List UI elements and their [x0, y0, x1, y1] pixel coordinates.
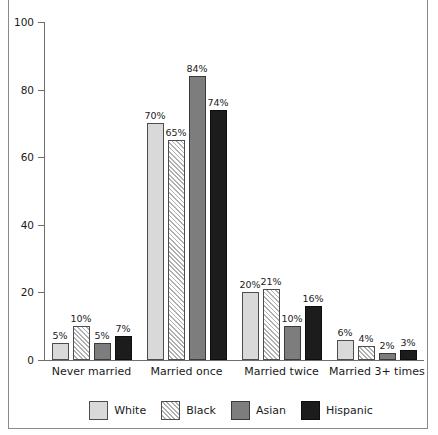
category-label-1: Married once: [139, 365, 234, 378]
y-tick-label: 100: [4, 17, 34, 27]
bar-value-label: 6%: [337, 328, 352, 338]
bar-slot: 74%: [210, 22, 227, 360]
y-tick-label: 60: [4, 152, 34, 162]
y-tick-label: 0: [4, 355, 34, 365]
bar-value-label: 21%: [260, 277, 281, 287]
bar-value-label: 20%: [239, 280, 260, 290]
bar-asian-3[interactable]: [379, 353, 396, 360]
swatch-asian-icon: [231, 401, 250, 420]
legend-item-hispanic[interactable]: Hispanic: [301, 401, 379, 420]
swatch-hispanic-icon: [301, 401, 320, 420]
bar-value-label: 3%: [400, 338, 415, 348]
bar-slot: 4%: [358, 22, 375, 360]
bar-hispanic-1[interactable]: [210, 110, 227, 360]
bar-group: 5%10%5%7%: [44, 22, 139, 360]
legend-item-white[interactable]: White: [89, 401, 152, 420]
bar-white-3[interactable]: [337, 340, 354, 360]
bar-slot: 84%: [189, 22, 206, 360]
legend-label: Asian: [256, 404, 286, 417]
y-tick-label-wrap: 20: [0, 292, 44, 293]
y-tick-label-wrap: 80: [0, 90, 44, 91]
category-label-0: Never married: [44, 365, 139, 378]
bar-value-label: 10%: [70, 314, 91, 324]
legend-item-asian[interactable]: Asian: [231, 401, 292, 420]
bar-hispanic-2[interactable]: [305, 306, 322, 360]
y-tick-label-wrap: 0: [0, 360, 44, 361]
bar-value-label: 65%: [165, 128, 186, 138]
legend-label: White: [114, 404, 146, 417]
chart-legend: WhiteBlackAsianHispanic: [44, 398, 424, 422]
bar-value-label: 5%: [52, 331, 67, 341]
bar-value-label: 4%: [358, 334, 373, 344]
legend-label: Hispanic: [326, 404, 373, 417]
bar-slot: 3%: [400, 22, 417, 360]
swatch-black-hatch-icon: [161, 401, 180, 420]
bar-white-0[interactable]: [52, 343, 69, 360]
bar-group: 20%21%10%16%: [234, 22, 329, 360]
bar-value-label: 74%: [207, 98, 228, 108]
y-tick-label: 80: [4, 85, 34, 95]
y-tick-label: 40: [4, 220, 34, 230]
bar-value-label: 70%: [144, 111, 165, 121]
bar-white-2[interactable]: [242, 292, 259, 360]
legend-label: Black: [186, 404, 216, 417]
bar-value-label: 5%: [94, 331, 109, 341]
bar-slot: 65%: [168, 22, 185, 360]
bar-value-label: 84%: [186, 64, 207, 74]
bar-slot: 21%: [263, 22, 280, 360]
bar-value-label: 7%: [115, 324, 130, 334]
bar-group: 6%4%2%3%: [329, 22, 424, 360]
bar-asian-1[interactable]: [189, 76, 206, 360]
bar-value-label: 2%: [379, 341, 394, 351]
bar-black-0[interactable]: [73, 326, 90, 360]
bar-slot: 20%: [242, 22, 259, 360]
bar-white-1[interactable]: [147, 123, 164, 360]
category-label-2: Married twice: [234, 365, 329, 378]
bar-slot: 2%: [379, 22, 396, 360]
bar-slot: 6%: [337, 22, 354, 360]
y-tick-label: 20: [4, 287, 34, 297]
bar-value-label: 16%: [302, 294, 323, 304]
bar-value-label: 10%: [281, 314, 302, 324]
y-tick-label-wrap: 100: [0, 22, 44, 23]
category-label-3: Married 3+ times: [329, 365, 424, 378]
bar-group: 70%65%84%74%: [139, 22, 234, 360]
swatch-white-icon: [89, 401, 108, 420]
bar-asian-2[interactable]: [284, 326, 301, 360]
legend-item-black[interactable]: Black: [161, 401, 222, 420]
bar-asian-0[interactable]: [94, 343, 111, 360]
y-tick-label-wrap: 40: [0, 225, 44, 226]
bar-black-2[interactable]: [263, 289, 280, 360]
bar-hispanic-3[interactable]: [400, 350, 417, 360]
bar-chart-plot: 020406080100 5%10%5%7%70%65%84%74%20%21%…: [0, 0, 438, 435]
y-tick-label-wrap: 60: [0, 157, 44, 158]
bar-hispanic-0[interactable]: [115, 336, 132, 360]
bar-black-1[interactable]: [168, 140, 185, 360]
bar-slot: 7%: [115, 22, 132, 360]
bar-slot: 10%: [284, 22, 301, 360]
bar-slot: 10%: [73, 22, 90, 360]
bar-slot: 16%: [305, 22, 322, 360]
bar-slot: 5%: [94, 22, 111, 360]
bar-slot: 70%: [147, 22, 164, 360]
x-axis-line: [44, 360, 424, 361]
bar-black-3[interactable]: [358, 346, 375, 360]
bars-layer: 5%10%5%7%70%65%84%74%20%21%10%16%6%4%2%3…: [44, 22, 424, 360]
bar-slot: 5%: [52, 22, 69, 360]
